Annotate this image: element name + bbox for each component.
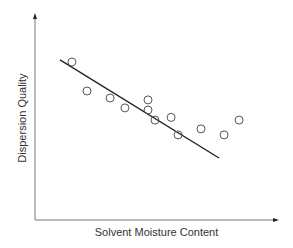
data-point	[220, 131, 228, 139]
x-axis-arrow-icon	[273, 218, 279, 222]
data-points	[68, 58, 243, 139]
data-point	[121, 104, 129, 112]
data-point	[144, 96, 152, 104]
data-point	[197, 125, 205, 133]
scatter-chart	[0, 0, 293, 248]
x-axis	[35, 218, 279, 222]
data-point	[235, 116, 243, 124]
data-point	[106, 94, 114, 102]
data-point	[83, 87, 91, 95]
y-axis-label: Dispersion Quality	[16, 73, 28, 162]
data-point	[68, 58, 76, 66]
trend-line	[60, 60, 219, 158]
data-point	[144, 106, 152, 114]
x-axis-label: Solvent Moisture Content	[0, 226, 293, 238]
data-point	[167, 113, 175, 121]
y-axis	[33, 13, 37, 220]
y-axis-arrow-icon	[33, 13, 37, 19]
